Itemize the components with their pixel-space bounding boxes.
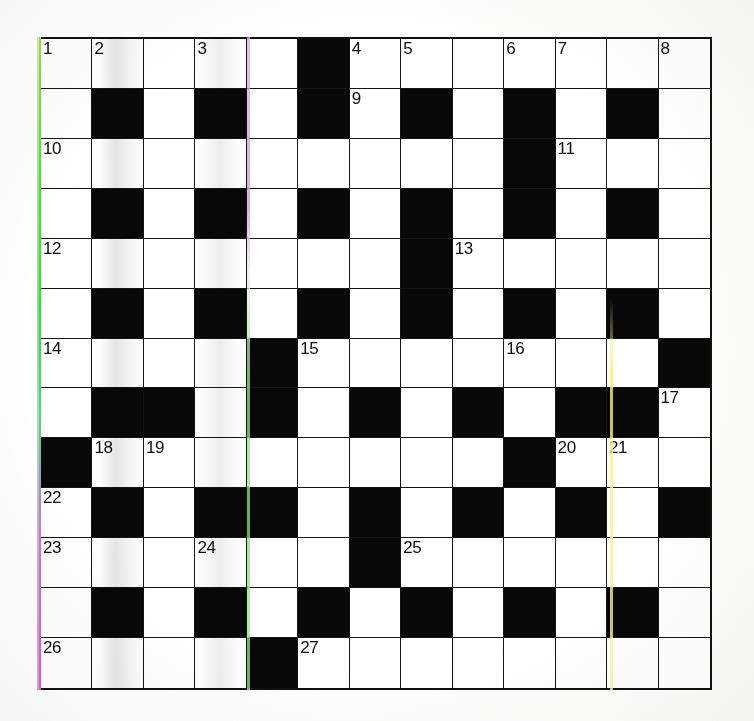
grid-letter-cell[interactable] bbox=[453, 89, 504, 139]
grid-letter-cell[interactable] bbox=[41, 588, 92, 638]
grid-letter-cell[interactable] bbox=[556, 538, 607, 588]
grid-letter-cell[interactable] bbox=[144, 538, 195, 588]
grid-letter-cell[interactable]: 24 bbox=[195, 538, 246, 588]
grid-letter-cell[interactable] bbox=[504, 239, 555, 289]
grid-letter-cell[interactable] bbox=[659, 538, 710, 588]
grid-letter-cell[interactable] bbox=[41, 289, 92, 339]
grid-letter-cell[interactable] bbox=[298, 139, 349, 189]
grid-letter-cell[interactable]: 25 bbox=[401, 538, 452, 588]
grid-letter-cell[interactable] bbox=[504, 638, 555, 688]
grid-letter-cell[interactable]: 17 bbox=[659, 388, 710, 438]
grid-letter-cell[interactable] bbox=[195, 438, 246, 488]
grid-letter-cell[interactable] bbox=[144, 39, 195, 89]
grid-letter-cell[interactable] bbox=[247, 538, 298, 588]
grid-letter-cell[interactable] bbox=[247, 139, 298, 189]
grid-letter-cell[interactable]: 9 bbox=[350, 89, 401, 139]
grid-letter-cell[interactable]: 12 bbox=[41, 239, 92, 289]
grid-letter-cell[interactable] bbox=[350, 239, 401, 289]
grid-letter-cell[interactable] bbox=[556, 588, 607, 638]
grid-letter-cell[interactable] bbox=[659, 588, 710, 638]
grid-letter-cell[interactable] bbox=[401, 388, 452, 438]
grid-letter-cell[interactable] bbox=[144, 139, 195, 189]
grid-letter-cell[interactable] bbox=[659, 189, 710, 239]
grid-letter-cell[interactable] bbox=[350, 139, 401, 189]
grid-letter-cell[interactable] bbox=[350, 289, 401, 339]
grid-letter-cell[interactable] bbox=[92, 139, 143, 189]
grid-letter-cell[interactable] bbox=[247, 239, 298, 289]
grid-letter-cell[interactable] bbox=[41, 89, 92, 139]
grid-letter-cell[interactable]: 5 bbox=[401, 39, 452, 89]
grid-letter-cell[interactable] bbox=[92, 538, 143, 588]
grid-letter-cell[interactable] bbox=[144, 339, 195, 389]
grid-letter-cell[interactable] bbox=[350, 638, 401, 688]
grid-letter-cell[interactable] bbox=[350, 189, 401, 239]
grid-letter-cell[interactable]: 27 bbox=[298, 638, 349, 688]
grid-letter-cell[interactable] bbox=[41, 189, 92, 239]
grid-letter-cell[interactable]: 13 bbox=[453, 239, 504, 289]
grid-letter-cell[interactable] bbox=[607, 339, 658, 389]
grid-letter-cell[interactable] bbox=[556, 638, 607, 688]
grid-letter-cell[interactable]: 4 bbox=[350, 39, 401, 89]
grid-letter-cell[interactable] bbox=[144, 488, 195, 538]
grid-letter-cell[interactable] bbox=[453, 638, 504, 688]
grid-letter-cell[interactable] bbox=[144, 588, 195, 638]
grid-letter-cell[interactable]: 21 bbox=[607, 438, 658, 488]
grid-letter-cell[interactable]: 23 bbox=[41, 538, 92, 588]
grid-letter-cell[interactable] bbox=[453, 438, 504, 488]
grid-letter-cell[interactable] bbox=[453, 538, 504, 588]
grid-letter-cell[interactable]: 8 bbox=[659, 39, 710, 89]
grid-letter-cell[interactable] bbox=[556, 239, 607, 289]
grid-letter-cell[interactable] bbox=[556, 289, 607, 339]
grid-letter-cell[interactable]: 15 bbox=[298, 339, 349, 389]
grid-letter-cell[interactable]: 22 bbox=[41, 488, 92, 538]
grid-letter-cell[interactable] bbox=[556, 339, 607, 389]
grid-letter-cell[interactable] bbox=[247, 289, 298, 339]
grid-letter-cell[interactable] bbox=[607, 538, 658, 588]
grid-letter-cell[interactable] bbox=[504, 488, 555, 538]
grid-letter-cell[interactable]: 11 bbox=[556, 139, 607, 189]
grid-letter-cell[interactable] bbox=[453, 189, 504, 239]
grid-letter-cell[interactable] bbox=[144, 239, 195, 289]
grid-letter-cell[interactable] bbox=[659, 89, 710, 139]
grid-letter-cell[interactable] bbox=[401, 139, 452, 189]
grid-letter-cell[interactable] bbox=[247, 438, 298, 488]
grid-letter-cell[interactable]: 18 bbox=[92, 438, 143, 488]
grid-letter-cell[interactable] bbox=[247, 588, 298, 638]
grid-letter-cell[interactable] bbox=[92, 638, 143, 688]
grid-letter-cell[interactable] bbox=[607, 239, 658, 289]
grid-letter-cell[interactable] bbox=[195, 239, 246, 289]
grid-letter-cell[interactable] bbox=[195, 139, 246, 189]
grid-letter-cell[interactable] bbox=[659, 438, 710, 488]
grid-letter-cell[interactable]: 19 bbox=[144, 438, 195, 488]
grid-letter-cell[interactable]: 10 bbox=[41, 139, 92, 189]
crossword-grid[interactable]: 1234567891011121314151617181920212223242… bbox=[39, 37, 712, 690]
grid-letter-cell[interactable] bbox=[298, 388, 349, 438]
grid-letter-cell[interactable] bbox=[298, 538, 349, 588]
grid-letter-cell[interactable] bbox=[195, 339, 246, 389]
grid-letter-cell[interactable] bbox=[453, 289, 504, 339]
grid-letter-cell[interactable] bbox=[298, 239, 349, 289]
grid-letter-cell[interactable] bbox=[659, 239, 710, 289]
grid-letter-cell[interactable] bbox=[401, 638, 452, 688]
grid-letter-cell[interactable] bbox=[453, 39, 504, 89]
grid-letter-cell[interactable] bbox=[556, 89, 607, 139]
grid-letter-cell[interactable] bbox=[350, 438, 401, 488]
grid-letter-cell[interactable] bbox=[659, 638, 710, 688]
grid-letter-cell[interactable] bbox=[504, 388, 555, 438]
grid-letter-cell[interactable]: 6 bbox=[504, 39, 555, 89]
grid-letter-cell[interactable] bbox=[144, 638, 195, 688]
grid-letter-cell[interactable]: 7 bbox=[556, 39, 607, 89]
grid-letter-cell[interactable] bbox=[350, 339, 401, 389]
grid-letter-cell[interactable] bbox=[144, 289, 195, 339]
grid-letter-cell[interactable] bbox=[607, 638, 658, 688]
grid-letter-cell[interactable] bbox=[401, 488, 452, 538]
grid-letter-cell[interactable] bbox=[247, 39, 298, 89]
grid-letter-cell[interactable]: 16 bbox=[504, 339, 555, 389]
grid-letter-cell[interactable] bbox=[453, 339, 504, 389]
grid-letter-cell[interactable] bbox=[41, 388, 92, 438]
grid-letter-cell[interactable] bbox=[607, 39, 658, 89]
grid-letter-cell[interactable] bbox=[607, 139, 658, 189]
grid-letter-cell[interactable] bbox=[247, 89, 298, 139]
grid-letter-cell[interactable] bbox=[401, 438, 452, 488]
grid-letter-cell[interactable] bbox=[92, 339, 143, 389]
